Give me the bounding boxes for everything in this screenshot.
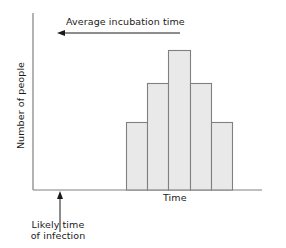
bar-2: [148, 84, 169, 191]
infection-arrow-head: [57, 191, 63, 199]
bar-3: [169, 51, 191, 191]
chart-canvas: [0, 0, 286, 248]
bar-1: [127, 123, 148, 191]
incubation-time-histogram-figure: Average incubation time Time Number of p…: [0, 0, 286, 248]
average-incubation-time-label: Average incubation time: [66, 16, 185, 27]
histogram-bars: [127, 51, 233, 191]
average-incubation-time-arrow: [57, 30, 180, 36]
bar-4: [191, 84, 212, 191]
incubation-arrow-head: [57, 30, 65, 36]
infection-label-line-2: of infection: [23, 230, 93, 241]
y-axis-label: Number of people: [15, 54, 26, 158]
x-axis-label: Time: [163, 192, 187, 203]
infection-label-line-1: Likely time: [23, 219, 93, 230]
likely-time-of-infection-label: Likely time of infection: [23, 219, 93, 241]
bar-5: [212, 123, 233, 191]
